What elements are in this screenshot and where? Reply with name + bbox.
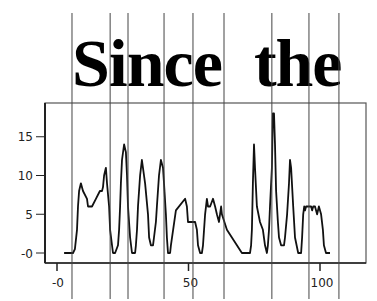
ink-density-chart: -051015 -050100 — [0, 0, 377, 301]
y-tick-label: 15 — [18, 130, 33, 144]
y-tick-label: 5 — [25, 208, 33, 222]
x-tick-label: 100 — [311, 276, 334, 290]
plot-frame — [45, 103, 366, 263]
y-axis-ticks: -051015 — [18, 130, 45, 260]
data-line — [64, 114, 330, 254]
x-tick-label: 50 — [183, 276, 198, 290]
y-tick-label: 10 — [18, 169, 33, 183]
y-tick-label: -0 — [21, 247, 33, 261]
segment-boundary-lines — [72, 13, 339, 299]
x-tick-label: -0 — [52, 276, 64, 290]
